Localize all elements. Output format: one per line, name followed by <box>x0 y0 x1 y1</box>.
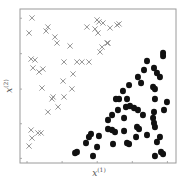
dot-marker <box>109 112 115 118</box>
scatter-chart <box>0 0 183 186</box>
dot-marker <box>115 107 121 113</box>
dot-marker <box>140 112 146 118</box>
dot-marker <box>74 149 80 155</box>
dot-marker <box>144 58 150 64</box>
dot-marker <box>152 96 158 102</box>
dot-marker <box>164 99 170 105</box>
dot-marker <box>135 107 141 113</box>
dot-marker <box>110 141 116 147</box>
dot-marker <box>124 96 130 102</box>
dot-marker <box>152 86 158 92</box>
x-axis-label: x(1) <box>84 166 114 178</box>
dot-marker <box>96 133 102 139</box>
dot-marker <box>135 74 141 80</box>
dot-marker <box>152 153 158 159</box>
dot-marker <box>126 82 132 88</box>
dot-marker <box>136 126 142 132</box>
dot-marker <box>83 140 89 146</box>
dot-marker <box>123 104 129 110</box>
dot-marker <box>112 129 118 135</box>
dot-marker <box>86 134 92 140</box>
dot-marker <box>151 109 157 115</box>
dot-marker <box>90 153 96 159</box>
dot-marker <box>154 139 160 145</box>
dot-marker <box>138 80 144 86</box>
dot-marker <box>133 134 139 140</box>
dot-marker <box>161 107 167 113</box>
dot-marker <box>160 151 166 157</box>
dot-marker <box>152 124 158 130</box>
dot-marker <box>105 117 111 123</box>
dot-marker <box>120 88 126 94</box>
dot-marker <box>126 141 132 147</box>
dot-marker <box>160 53 166 59</box>
dot-marker <box>141 67 147 73</box>
dot-marker <box>121 115 127 121</box>
dot-marker <box>144 132 150 138</box>
dot-marker <box>121 128 127 134</box>
dot-marker <box>157 74 163 80</box>
dot-marker <box>113 96 119 102</box>
dot-marker <box>94 144 100 150</box>
y-axis-label: x(2) <box>2 76 14 96</box>
